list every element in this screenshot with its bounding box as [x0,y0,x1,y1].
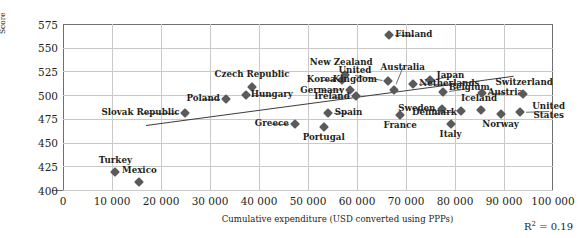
data-point-label: Poland [186,94,219,103]
gridline-vertical [210,24,211,190]
scatter-chart: Score 400425450475500525550575 010 00020… [0,0,579,238]
x-tick-label: 0 [60,196,67,207]
x-tick-label: 100 000 [531,196,574,207]
gridline-horizontal [63,190,553,191]
data-point-label: Finland [395,31,432,40]
data-point-label: Denmark [412,109,457,118]
data-point-label: United Kingdom [333,66,377,84]
data-point-label: Italy [440,130,462,139]
y-tick-label: 400 [0,185,58,197]
data-point-label: Ireland [314,92,350,101]
x-tick-label: 20 000 [143,196,180,207]
data-point-label: Spain [335,109,363,118]
x-axis-title: Cumulative expenditure (USD converted us… [0,214,579,224]
y-tick-label: 525 [0,66,58,78]
y-tick-label: 500 [0,90,58,102]
y-tick-label: 450 [0,137,58,149]
y-tick-label: 550 [0,42,58,54]
data-point-label: United States [532,102,565,120]
data-point-label: Korea [307,75,336,84]
data-point-label: France [383,121,416,130]
gridline-vertical [259,24,260,190]
data-point-label: Portugal [303,134,345,143]
data-point-label: Australia [381,63,425,72]
x-tick-label: 50 000 [290,196,327,207]
x-tick-label: 70 000 [388,196,425,207]
data-point-label: Switzerland [495,79,552,88]
x-tick-label: 30 000 [192,196,229,207]
data-point-label: Czech Republic [215,70,290,79]
x-tick-label: 60 000 [339,196,376,207]
x-tick-label: 90 000 [486,196,523,207]
data-point-label: Mexico [122,166,157,175]
data-point-label: Slovak Republic [101,109,179,118]
x-tick-label: 80 000 [437,196,474,207]
y-tick-label: 575 [0,19,58,31]
data-point-label: Norway [482,120,518,129]
x-tick-label: 10 000 [94,196,131,207]
data-point-label: Hungary [251,90,293,99]
data-point-label: Greece [255,119,289,128]
y-tick-label: 475 [0,113,58,125]
x-tick-label: 40 000 [241,196,278,207]
gridline-vertical [504,24,505,190]
y-tick-label: 425 [0,161,58,173]
gridline-vertical [308,24,309,190]
